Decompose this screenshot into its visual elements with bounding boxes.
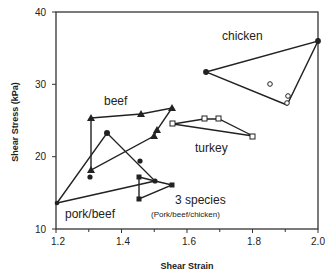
- series-beef: [87, 104, 176, 173]
- x-tick-label: 1.8: [247, 236, 261, 247]
- shear-stress-strain-chart: 10 20 30 40 1.2 1.4 1.6 1.8 2.0 Shear St…: [0, 0, 336, 279]
- label-beef: beef: [104, 94, 128, 108]
- y-tick-label: 20: [35, 151, 47, 162]
- series-chicken: [204, 39, 320, 106]
- y-tick-label: 30: [35, 79, 47, 90]
- series-pork-beef: [55, 130, 158, 205]
- x-tick-label: 1.2: [51, 236, 65, 247]
- x-axis-title: Shear Strain: [160, 261, 213, 271]
- label-3-species: 3 species: [175, 193, 226, 207]
- y-tick-label: 40: [35, 7, 47, 18]
- y-tick-label: 10: [35, 224, 47, 235]
- x-tick-label: 1.6: [182, 236, 196, 247]
- y-axis-title: Shear Stress (kPa): [10, 82, 20, 162]
- x-tick-label: 1.4: [116, 236, 130, 247]
- label-turkey: turkey: [195, 141, 228, 155]
- label-chicken: chicken: [222, 29, 263, 43]
- label-3-species-sub: (Pork/beef/chicken): [151, 210, 220, 219]
- x-tick-label: 2.0: [311, 236, 325, 247]
- series-turkey: [170, 116, 255, 139]
- label-pork-beef: pork/beef: [65, 207, 116, 221]
